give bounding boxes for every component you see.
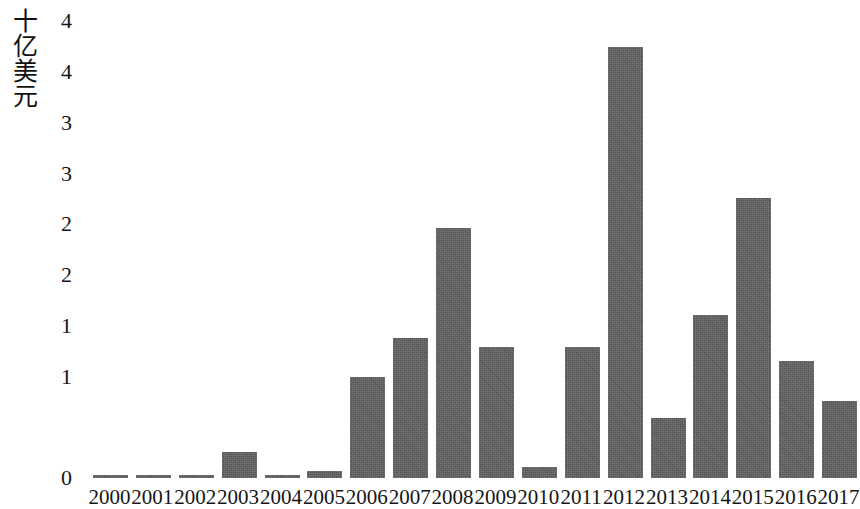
x-axis-tick-2005: 2005: [302, 486, 345, 509]
x-axis-tick-2010: 2010: [517, 486, 560, 509]
x-axis-tick-2016: 2016: [774, 486, 817, 509]
bar-2010: [522, 467, 557, 478]
bar-2004: [265, 475, 300, 478]
x-axis-tick-2003: 2003: [217, 486, 260, 509]
x-axis-tick-2011: 2011: [560, 486, 603, 509]
x-axis-tick-2008: 2008: [431, 486, 474, 509]
plot-area: [88, 0, 860, 486]
x-axis-tick-2007: 2007: [388, 486, 431, 509]
y-axis-tick-5: 2: [38, 264, 72, 286]
bar-2003: [222, 452, 257, 478]
bar-2008: [436, 228, 471, 478]
bar-chart: 十亿美元 443322110 2000200120022003200420052…: [0, 0, 860, 509]
bar-2000: [93, 475, 128, 478]
x-axis-tick-2000: 2000: [88, 486, 131, 509]
x-axis-tick-2013: 2013: [646, 486, 689, 509]
bar-2014: [693, 315, 728, 478]
y-axis-title: 十亿美元: [4, 8, 38, 108]
bar-2013: [651, 418, 686, 478]
bar-2006: [350, 377, 385, 479]
y-axis-tick-labels: 443322110: [38, 0, 72, 509]
bar-2017: [822, 401, 857, 478]
bar-2007: [393, 338, 428, 478]
x-axis-tick-2004: 2004: [260, 486, 303, 509]
x-axis-tick-2006: 2006: [345, 486, 388, 509]
y-axis-tick-7: 1: [38, 366, 72, 388]
y-axis-tick-2: 3: [38, 112, 72, 134]
x-axis-tick-2001: 2001: [131, 486, 174, 509]
bar-2012: [608, 47, 643, 478]
x-axis-tick-2014: 2014: [688, 486, 731, 509]
y-axis-tick-8: 0: [38, 467, 72, 489]
y-axis-tick-6: 1: [38, 315, 72, 337]
x-axis-tick-2017: 2017: [817, 486, 860, 509]
bar-2016: [779, 361, 814, 478]
bar-2011: [565, 347, 600, 478]
y-axis-tick-4: 2: [38, 213, 72, 235]
bar-2001: [136, 475, 171, 478]
x-axis-tick-2015: 2015: [731, 486, 774, 509]
bar-2002: [179, 475, 214, 478]
x-axis-tick-2009: 2009: [474, 486, 517, 509]
x-axis-tick-labels: 2000200120022003200420052006200720082009…: [88, 486, 860, 509]
y-axis-tick-1: 4: [38, 61, 72, 83]
bar-2009: [479, 347, 514, 478]
x-axis-tick-2002: 2002: [174, 486, 217, 509]
bar-2015: [736, 198, 771, 478]
y-axis-tick-3: 3: [38, 163, 72, 185]
x-axis-tick-2012: 2012: [603, 486, 646, 509]
bars-layer: [88, 0, 860, 486]
bar-2005: [307, 471, 342, 478]
y-axis-tick-0: 4: [38, 10, 72, 32]
